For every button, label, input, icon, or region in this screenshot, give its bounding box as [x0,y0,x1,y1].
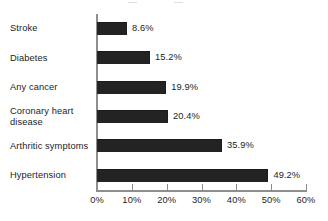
bar [97,51,150,64]
x-axis-tick-label: 10% [122,194,141,206]
x-axis-tick-label: 50% [262,194,281,206]
bar-value-label: 19.9% [171,83,198,92]
bar-row: Any cancer19.9% [0,73,328,102]
bar [97,110,168,123]
x-axis-tick-label: 20% [157,194,176,206]
x-axis-ticks [97,184,306,191]
bar-value-label: 49.2% [273,171,300,180]
category-label: Stroke [10,23,92,34]
bar [97,81,166,94]
x-axis-tick-label: 60% [297,194,316,206]
category-label: Hypertension [10,170,92,181]
bar-row: Coronary heart disease20.4% [0,102,328,131]
x-axis-tick [167,184,168,190]
bar-wrap: 8.6% [97,14,306,43]
bar-wrap: 20.4% [97,102,306,131]
x-axis-tick [132,184,133,190]
bar [97,22,127,35]
x-axis-tick-label: 0% [90,194,104,206]
bar-chart: Stroke8.6%Diabetes15.2%Any cancer19.9%Co… [0,0,328,221]
x-axis-tick-label: 30% [192,194,211,206]
bar-value-label: 20.4% [173,112,200,121]
bar-row: Diabetes15.2% [0,43,328,72]
category-label: Any cancer [10,82,92,93]
bar-wrap: 19.9% [97,73,306,102]
bar [97,169,268,182]
bar-wrap: 15.2% [97,43,306,72]
scan-artifact [174,2,183,3]
bar-value-label: 35.9% [227,141,254,150]
x-axis-tick-labels: 0%10%20%30%40%50%60% [97,194,306,208]
bar-value-label: 15.2% [155,53,182,62]
x-axis-tick [306,184,307,190]
bar-wrap: 35.9% [97,131,306,160]
bar [97,139,222,152]
x-axis-tick [202,184,203,190]
scan-artifact [128,2,137,3]
bar-value-label: 8.6% [132,24,154,33]
category-label: Diabetes [10,53,92,64]
bar-row: Stroke8.6% [0,14,328,43]
x-axis-tick [271,184,272,190]
x-axis-tick [236,184,237,190]
category-label: Coronary heart disease [10,106,92,127]
x-axis-tick-label: 40% [227,194,246,206]
bar-row: Arthritic symptoms35.9% [0,131,328,160]
bar-rows: Stroke8.6%Diabetes15.2%Any cancer19.9%Co… [0,14,328,190]
category-label: Arthritic symptoms [10,141,92,152]
